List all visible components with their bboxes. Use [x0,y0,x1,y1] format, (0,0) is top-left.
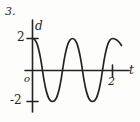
y-tick-label-2: 2 [17,31,25,43]
y-axis-label: d [35,20,43,32]
x-axis-label: t [129,64,134,76]
x-tick-label-2: 2 [108,76,115,87]
y-tick-label-minus-2: -2 [10,94,22,106]
graph-figure: 3. d t o 2 -2 2 [0,0,140,122]
origin-label: o [24,74,30,84]
